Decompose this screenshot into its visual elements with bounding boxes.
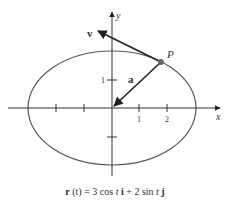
caption-t-arg: (t) = 3 cos	[70, 186, 116, 198]
equation-caption: r (t) = 3 cos t i + 2 sin t j	[65, 186, 164, 198]
ellipse-diagram: 1 2 1 x y v a P r (t) = 3 cos t i + 2 si…	[0, 0, 231, 203]
velocity-label: v	[87, 27, 93, 39]
caption-j: j	[159, 186, 165, 197]
point-p	[158, 59, 164, 65]
point-p-label: P	[166, 48, 174, 60]
x-axis-label: x	[215, 111, 221, 122]
acceleration-label: a	[128, 73, 134, 85]
x-tick-label-2: 2	[165, 115, 169, 124]
x-tick-label-1: 1	[137, 115, 141, 124]
y-tick-label-1: 1	[101, 76, 105, 85]
velocity-vector	[98, 31, 161, 62]
y-axis-label: y	[115, 10, 121, 21]
caption-mid: + 2 sin	[124, 186, 156, 197]
acceleration-vector	[114, 62, 161, 106]
